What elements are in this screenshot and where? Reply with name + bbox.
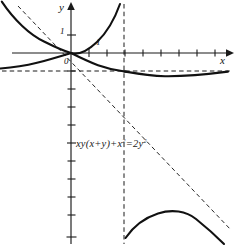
y-axis-tick-label-1: 1 bbox=[60, 27, 65, 36]
equation-part-1: xy(x+y)+x bbox=[76, 138, 122, 149]
x-axis-tick-label-1: 1 bbox=[96, 38, 101, 47]
x-axis-arrowhead bbox=[226, 49, 234, 57]
origin-label: 0 bbox=[64, 57, 69, 66]
equation-part-2: =2y bbox=[126, 138, 144, 149]
oblique-asymptote bbox=[18, 6, 231, 230]
plot-canvas bbox=[0, 0, 237, 249]
branch-center-descending bbox=[71, 53, 126, 72]
y-axis-label: y bbox=[59, 2, 64, 13]
figure-container: y x 0 1 1 xy(x+y)+x2=2y2 bbox=[0, 0, 237, 249]
y-axis-arrowhead bbox=[67, 2, 75, 10]
equation-annotation: xy(x+y)+x2=2y2 bbox=[76, 139, 147, 150]
equation-exponent-2: 2 bbox=[143, 137, 146, 144]
branch-bottom-right bbox=[126, 211, 225, 244]
branch-left-lower bbox=[1, 53, 72, 69]
branch-right-lower bbox=[124, 71, 228, 76]
x-axis-label: x bbox=[220, 55, 225, 66]
